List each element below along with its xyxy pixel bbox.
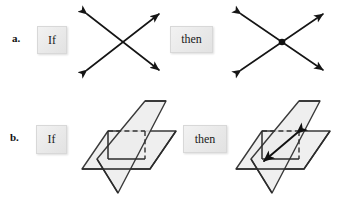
two-intersecting-lines-with-point-icon bbox=[232, 4, 332, 80]
two-intersecting-planes-with-line-icon bbox=[234, 97, 339, 197]
row-a-then-label: then bbox=[181, 32, 202, 47]
row-a-if-box: If bbox=[37, 26, 67, 54]
row-b-then-label: then bbox=[195, 132, 216, 147]
figure-row-a: a. If then bbox=[0, 0, 341, 99]
row-b-letter: b. bbox=[10, 132, 19, 143]
row-a-if-label: If bbox=[48, 33, 56, 48]
row-b-if-box: If bbox=[36, 125, 67, 154]
point-of-intersection-dot bbox=[279, 39, 286, 46]
two-intersecting-lines-icon bbox=[78, 4, 168, 80]
row-a-then-box: then bbox=[170, 26, 213, 53]
row-a-letter: a. bbox=[12, 33, 20, 44]
row-b-if-label: If bbox=[48, 132, 56, 147]
figure-row-b: b. If then bbox=[0, 97, 341, 197]
row-b-then-box: then bbox=[183, 125, 227, 153]
geometry-figure: a. If then bbox=[0, 0, 341, 197]
two-intersecting-planes-icon bbox=[80, 97, 185, 197]
